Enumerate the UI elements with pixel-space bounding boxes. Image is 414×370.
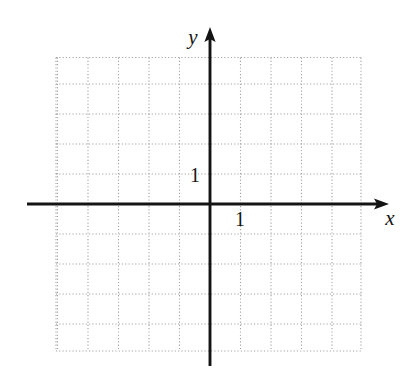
x-axis-label: x <box>384 206 395 230</box>
y-unit-tick-label: 1 <box>190 164 200 186</box>
figure-canvas: x y 1 1 <box>0 0 414 370</box>
y-axis-label: y <box>186 25 198 49</box>
coordinate-plane-figure: x y 1 1 <box>0 0 414 370</box>
x-unit-tick-label: 1 <box>235 208 245 230</box>
figure-background <box>0 0 414 370</box>
